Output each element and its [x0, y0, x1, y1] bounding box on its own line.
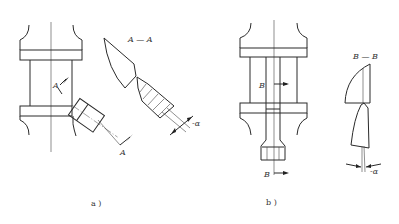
- section-mark-b-top: B: [258, 81, 265, 90]
- angle-label-a: -α: [192, 119, 201, 128]
- bottom-flange-b: [240, 103, 307, 113]
- angle-label-b: -α: [370, 167, 379, 176]
- top-right-curve: [73, 25, 82, 50]
- hex-head-b: [261, 140, 285, 160]
- section-mark-b-bottom: B: [263, 170, 270, 179]
- lower-wedge-b: [351, 103, 369, 148]
- section-title-b: B — B: [352, 52, 378, 61]
- subfigure-a: A A A — A -α a ): [20, 22, 201, 208]
- section-mark-a-bottom: A: [119, 148, 126, 157]
- section-title-a: A — A: [127, 35, 153, 44]
- caption-a: a ): [91, 199, 101, 208]
- angled-tool-a: [67, 97, 124, 145]
- caption-b: b ): [266, 198, 277, 207]
- subfigure-b: B B B — B -α b ): [240, 20, 381, 207]
- bottom-flange-a: [20, 106, 72, 116]
- top-left-curve: [20, 25, 29, 50]
- lower-wedge-a: [137, 77, 174, 118]
- top-flange-b: [240, 48, 307, 57]
- upper-wedge-b: [345, 64, 370, 103]
- technical-diagram: A A A — A -α a ): [0, 0, 399, 224]
- upper-wedge-a: [104, 38, 136, 88]
